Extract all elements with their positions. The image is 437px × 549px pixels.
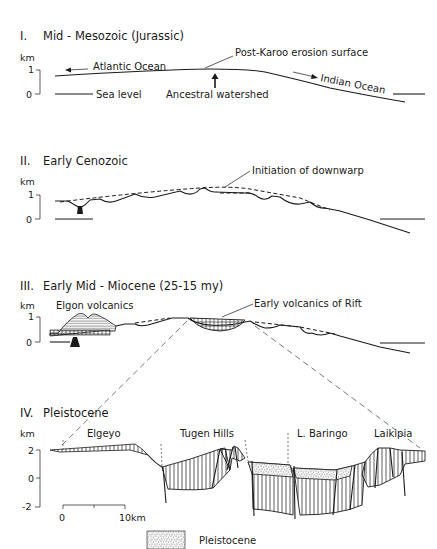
section-4-numeral: IV. <box>20 406 33 420</box>
scale-bar <box>63 505 125 509</box>
section-4-tick-0: 0 <box>28 473 34 484</box>
geological-cross-sections: I. Mid - Mesozoic (Jurassic) km 1 0 Atla… <box>0 0 437 549</box>
land-surface <box>55 188 410 233</box>
section-2: II. Early Cenozoic km 1 0 Initiation of … <box>20 154 425 233</box>
volcano-plug-icon <box>77 206 83 214</box>
section-1: I. Mid - Mesozoic (Jurassic) km 1 0 Atla… <box>20 29 425 102</box>
section-2-axis-unit: km <box>20 176 35 187</box>
volcano-plug-icon <box>70 337 80 347</box>
divider-dotted <box>245 440 248 461</box>
downwarp-dashed-surface <box>60 187 330 210</box>
legend-swatch-stipple <box>147 531 185 549</box>
section-3-tick-1: 1 <box>28 311 34 322</box>
divider-dotted <box>161 444 162 466</box>
label-l-baringo: L. Baringo <box>297 428 348 439</box>
surface-leader-line <box>205 56 233 68</box>
section-4-tick-neg2: -2 <box>22 501 31 512</box>
section-3-tick-0: 0 <box>26 337 32 348</box>
elgon-basement <box>50 330 110 335</box>
legend: Pleistocene <box>147 531 256 549</box>
projection-line-west <box>60 321 187 447</box>
label-early-volcanics-of-rift: Early volcanics of Rift <box>254 298 362 309</box>
label-sea-level: Sea level <box>96 89 142 100</box>
section-2-axis <box>35 195 40 219</box>
label-tugen-hills: Tugen Hills <box>179 428 234 439</box>
section-1-axis-unit: km <box>20 52 35 63</box>
escarpment-slope <box>148 455 162 467</box>
section-3-title: Early Mid - Miocene (25-15 my) <box>43 279 223 293</box>
rift-volcanics <box>190 318 245 331</box>
scale-bar-start: 0 <box>59 512 65 523</box>
label-atlantic-ocean: Atlantic Ocean <box>93 61 166 72</box>
section-2-tick-1: 1 <box>28 189 34 200</box>
tugen-hills-block <box>162 448 230 490</box>
section-3: III. Early Mid - Miocene (25-15 my) km 1… <box>20 279 425 448</box>
scale-bar-end: 10km <box>119 512 146 523</box>
elgeyo-block <box>50 444 148 455</box>
label-elgeyo: Elgeyo <box>87 428 121 439</box>
section-1-title: Mid - Mesozoic (Jurassic) <box>43 29 184 43</box>
label-ancestral-watershed: Ancestral watershed <box>166 89 269 100</box>
downwarp-leader-line <box>225 171 250 187</box>
label-initiation-of-downwarp: Initiation of downwarp <box>252 165 364 176</box>
section-3-axis <box>35 317 40 342</box>
legend-label-pleistocene: Pleistocene <box>199 535 256 546</box>
section-1-tick-1: 1 <box>28 64 34 75</box>
section-4-axis <box>35 450 40 507</box>
section-2-tick-0: 0 <box>26 214 32 225</box>
section-2-title: Early Cenozoic <box>43 154 128 168</box>
pleistocene-sediments <box>294 466 352 480</box>
label-laikipia: Laikipia <box>374 428 412 439</box>
arrow-right-icon <box>311 74 318 79</box>
rift-volcanics-leader-line <box>222 304 253 317</box>
section-3-axis-unit: km <box>20 300 35 311</box>
section-4-axis-unit: km <box>20 428 35 439</box>
laikipia-block <box>362 448 425 487</box>
section-1-axis <box>35 70 40 94</box>
section-4-title: Pleistocene <box>43 406 109 420</box>
section-1-numeral: I. <box>20 29 27 43</box>
section-4: IV. Pleistocene km 2 0 -2 <box>20 406 425 523</box>
arrow-up-icon <box>212 73 219 79</box>
section-4-tick-2: 2 <box>28 445 34 456</box>
arrow-left-icon <box>65 68 71 73</box>
section-2-numeral: II. <box>20 154 30 168</box>
label-erosion-surface: Post-Karoo erosion surface <box>235 47 368 58</box>
label-elgon-volcanics: Elgon volcanics <box>56 300 133 311</box>
section-3-numeral: III. <box>20 279 34 293</box>
section-1-tick-0: 0 <box>26 89 32 100</box>
